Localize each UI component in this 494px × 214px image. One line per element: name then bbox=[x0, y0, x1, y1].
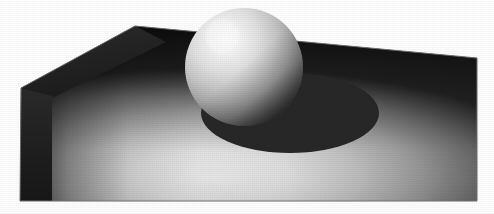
plane-left-edge-band bbox=[20, 88, 52, 201]
sphere-specular-highlight bbox=[205, 19, 239, 53]
sphere-terminator-shading bbox=[185, 8, 303, 126]
rendered-scene bbox=[0, 0, 494, 214]
sphere-group bbox=[185, 8, 303, 126]
scene-canvas bbox=[0, 0, 494, 214]
